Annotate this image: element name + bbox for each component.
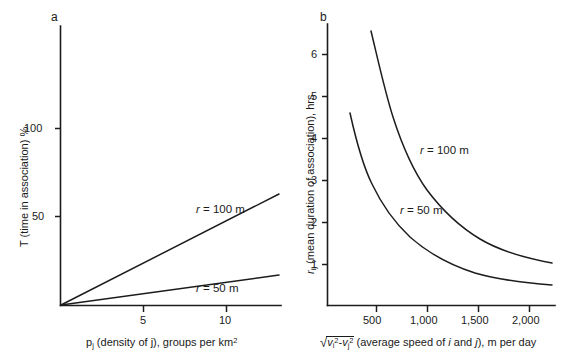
panel-b-xtick-label-1000: 1,000 xyxy=(410,314,438,327)
panel-a-x-axis-title-rest: (density of j), groups per km xyxy=(94,336,233,348)
panel-b-y-axis-title: rij (mean duration of association), hrs xyxy=(304,95,318,274)
panel-a-curve-label-r100: r = 100 m xyxy=(196,203,245,216)
panel-a-letter: a xyxy=(51,11,58,25)
panel-a-curve-label-r100-rest: = 100 m xyxy=(200,203,245,215)
panel-a-xtick-label-5: 5 xyxy=(140,314,146,327)
panel-a-xtick-label-10: 10 xyxy=(219,314,231,327)
panel-b-x-axis-title-rest-a: (average speed of xyxy=(354,336,449,348)
panel-b-xtick-label-500: 500 xyxy=(363,314,381,327)
panel-b-x-axis-title: √vi2-vj2 (average speed of i and j), m p… xyxy=(319,336,536,350)
panel-b-curve-label-r100-rest: = 100 m xyxy=(424,144,469,156)
panel-b-xtick-label-1500: 1,500 xyxy=(461,314,489,327)
panel-a-curve-r50 xyxy=(61,275,279,305)
panel-a-x-axis-title: pj (density of j), groups per km2 xyxy=(86,336,237,350)
panel-b-y-axis-title-sub: ij xyxy=(309,267,318,270)
panel-a: a 100 50 5 10 T (time in association) % … xyxy=(0,0,290,360)
panel-b-curve-r50 xyxy=(350,113,552,285)
panel-b-x-axis-title-rest-c: ), m per day xyxy=(478,336,537,348)
panel-a-ytick-label-50: 50 xyxy=(32,210,44,223)
panel-b-curve-label-r50: r = 50 m xyxy=(400,204,443,217)
panel-a-y-axis-title: T (time in association) % xyxy=(18,127,30,247)
panel-b-letter: b xyxy=(320,11,327,25)
panel-a-y-axis-title-text: T (time in association) % xyxy=(18,127,30,247)
panel-b-xtick-label-2000: 2,000 xyxy=(512,314,540,327)
panel-b-graphic xyxy=(290,0,579,360)
panel-b-ytick-label-6: 6 xyxy=(311,48,317,61)
panel-a-curve-label-r50: r = 50 m xyxy=(196,282,239,295)
panel-a-curve-r100 xyxy=(61,194,279,305)
panel-b-x-axis-radical: √vi2-vj2 xyxy=(319,336,354,350)
panel-b-y-axis-title-prefix: r xyxy=(304,270,316,274)
panel-b: b 6 5 4 3 2 1 500 1,000 1,500 2,000 rij … xyxy=(290,0,579,360)
panel-b-curve-label-r50-rest: = 50 m xyxy=(404,204,443,216)
panel-b-curve-label-r100: r = 100 m xyxy=(420,144,469,157)
panel-a-curve-label-r50-rest: = 50 m xyxy=(200,282,239,294)
panel-a-x-axis-title-sup: 2 xyxy=(233,336,237,345)
panel-b-y-axis-title-rest: (mean duration of association), hrs xyxy=(304,95,316,267)
panel-b-x-axis-title-rest-b: and xyxy=(451,336,475,348)
figure-container: a 100 50 5 10 T (time in association) % … xyxy=(0,0,579,360)
radical-overbar xyxy=(326,336,354,337)
panel-a-graphic xyxy=(0,0,290,360)
